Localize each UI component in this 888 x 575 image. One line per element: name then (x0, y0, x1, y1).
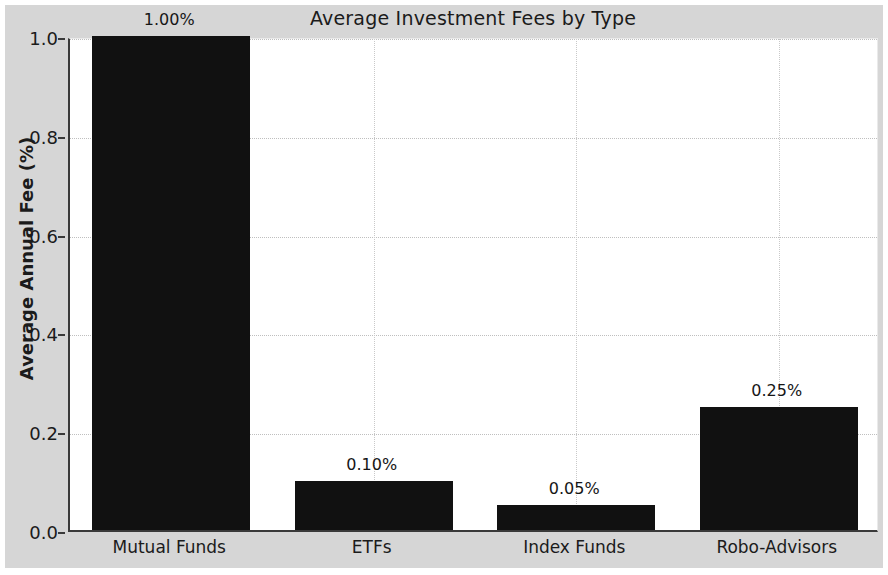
x-tick-label: Mutual Funds (113, 537, 226, 557)
bar-value-label: 0.05% (549, 479, 600, 498)
y-axis-tick-labels: 0.00.20.40.60.81.0 (0, 38, 58, 532)
y-tick-mark (58, 433, 65, 435)
bar-etfs (295, 481, 453, 530)
y-tick-label: 0.0 (29, 522, 58, 543)
bar-robo-advisors (700, 407, 858, 531)
x-tick-label: ETFs (352, 537, 392, 557)
bar-index-funds (497, 505, 655, 530)
x-tick-label: Robo-Advisors (716, 537, 837, 557)
bar-mutual-funds (92, 36, 250, 530)
y-tick-label: 0.6 (29, 225, 58, 246)
y-tick-label: 0.4 (29, 324, 58, 345)
bar-value-label: 1.00% (144, 10, 195, 29)
plot-area (68, 38, 878, 532)
y-tick-mark (58, 532, 65, 534)
chart-figure: Average Investment Fees by Type Average … (0, 0, 888, 575)
y-tick-mark (58, 38, 65, 40)
y-tick-label: 0.8 (29, 126, 58, 147)
y-tick-label: 1.0 (29, 28, 58, 49)
y-tick-mark (58, 236, 65, 238)
x-tick-label: Index Funds (523, 537, 625, 557)
plot-inner (70, 39, 877, 530)
y-tick-label: 0.2 (29, 423, 58, 444)
bar-value-label: 0.10% (346, 455, 397, 474)
gridline-vertical (576, 39, 577, 530)
y-tick-mark (58, 334, 65, 336)
y-tick-mark (58, 137, 65, 139)
bar-value-label: 0.25% (751, 381, 802, 400)
